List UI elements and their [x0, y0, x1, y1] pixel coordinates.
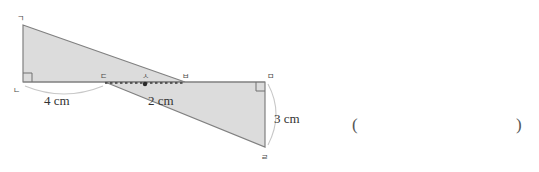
- dimension-label-3cm: 3 cm: [274, 111, 300, 126]
- dimension-label-4cm: 4 cm: [44, 93, 70, 108]
- vertex-label-g: ㄱ: [17, 14, 24, 23]
- answer-paren-open: (: [352, 115, 358, 134]
- vertex-label-r: ㄹ: [261, 153, 268, 162]
- answer-paren-close: ): [516, 115, 522, 134]
- right-quadrilateral-shape: [105, 82, 265, 147]
- vertex-label-m: ㅁ: [267, 72, 274, 81]
- geometry-figure-container: ㄱ ㄴ ㄷ ㄹ ㅁ ㅂ ㅅ 4 cm 2 cm 3 cm ( ): [0, 0, 539, 172]
- vertex-label-b: ㅂ: [182, 72, 189, 81]
- vertex-label-d: ㄷ: [100, 72, 107, 81]
- dimension-label-2cm: 2 cm: [148, 93, 174, 108]
- vertex-label-s: ㅅ: [142, 72, 149, 81]
- geometry-figure-svg: ㄱ ㄴ ㄷ ㄹ ㅁ ㅂ ㅅ 4 cm 2 cm 3 cm ( ): [0, 0, 539, 172]
- vertex-label-n: ㄴ: [13, 86, 20, 95]
- midpoint-dot-s: [143, 82, 147, 86]
